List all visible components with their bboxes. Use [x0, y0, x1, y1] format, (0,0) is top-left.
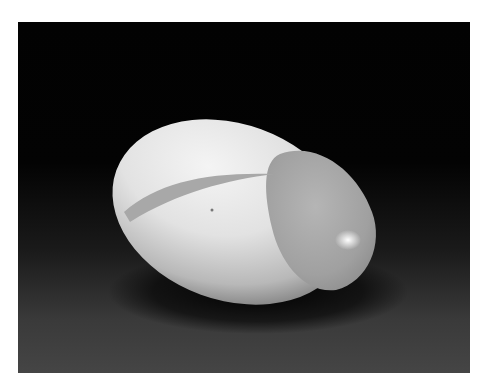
cavity-highlight [335, 230, 361, 250]
surface-mark [211, 209, 214, 212]
egg-sculpture [18, 22, 470, 373]
sculpture-photo [18, 22, 470, 373]
